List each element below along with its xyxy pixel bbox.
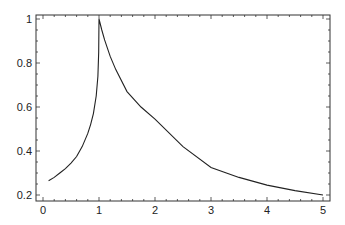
axis-ticks [36, 15, 330, 201]
y-tick-label: 0.2 [17, 189, 32, 201]
y-tick-label: 1 [26, 13, 32, 25]
x-tick-label: 0 [40, 204, 46, 216]
x-tick-label: 5 [320, 204, 326, 216]
y-tick-label: 0.6 [17, 101, 32, 113]
y-tick-label: 0.8 [17, 57, 32, 69]
x-tick-label: 4 [264, 204, 270, 216]
line-chart: 0123450.20.40.60.81 [0, 0, 345, 225]
x-tick-label: 2 [152, 204, 158, 216]
x-tick-label: 1 [96, 204, 102, 216]
data-line [49, 19, 323, 195]
x-tick-label: 3 [208, 204, 214, 216]
tick-labels: 0123450.20.40.60.81 [17, 13, 326, 216]
y-tick-label: 0.4 [17, 145, 32, 157]
plot-frame [36, 15, 330, 201]
